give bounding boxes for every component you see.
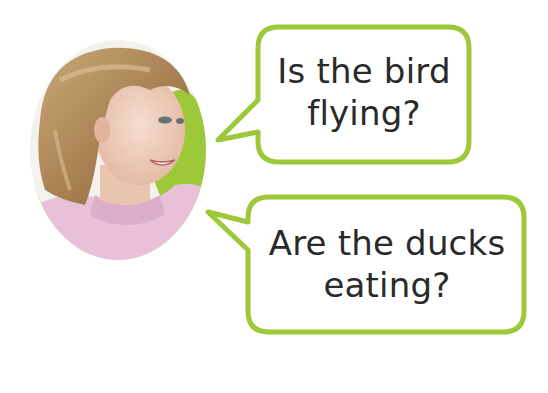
bubble-1-text: Is the bird flying?: [258, 50, 470, 134]
illustration-stage: Is the bird flying? Are the ducks eating…: [0, 0, 548, 393]
bubble-2-line-2: eating?: [248, 264, 526, 306]
bubble-1-line-2: flying?: [258, 92, 470, 134]
bubble-2-line-1: Are the ducks: [248, 222, 526, 264]
bubble-2-text: Are the ducks eating?: [248, 222, 526, 306]
bubble-1-line-1: Is the bird: [258, 50, 470, 92]
girl-portrait-icon: [20, 30, 220, 270]
